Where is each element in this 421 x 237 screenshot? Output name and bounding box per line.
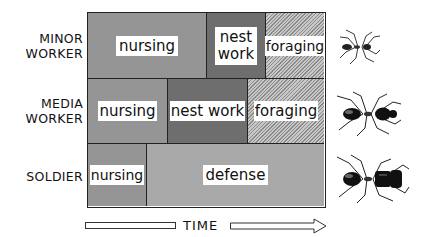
- cell-media-foraging: foraging: [248, 79, 324, 144]
- ant-medium-icon: [335, 90, 405, 138]
- row-label-media-worker: MEDIA WORKER: [26, 96, 83, 126]
- task-label-line: work: [218, 45, 254, 63]
- row-label-soldier: SOLDIER: [26, 169, 83, 184]
- row-label-minor-worker: MINOR WORKER: [26, 31, 83, 61]
- row-label-line: WORKER: [26, 46, 83, 61]
- task-label: nursing: [98, 101, 156, 121]
- row-label-line: MINOR: [26, 31, 83, 46]
- task-label: foraging: [254, 101, 319, 121]
- time-axis: TIME: [0, 218, 421, 234]
- cell-minor-nest-work: nest work: [207, 13, 266, 79]
- cell-minor-nursing: nursing: [88, 13, 207, 79]
- arrow-shaft-left: [85, 221, 177, 231]
- arrow-right-icon: [230, 218, 328, 234]
- row-label-line: MEDIA: [26, 96, 83, 111]
- cell-media-nest-work: nest work: [168, 79, 248, 144]
- cell-soldier-nursing: nursing: [88, 144, 147, 206]
- ant-small-icon: [336, 28, 386, 66]
- task-label: nursing: [90, 165, 144, 185]
- task-label: nest work: [215, 27, 257, 65]
- row-label-line: WORKER: [26, 111, 83, 126]
- ant-large-icon: [335, 153, 411, 205]
- task-label: defense: [203, 165, 269, 185]
- task-grid: nursing nest work foraging nursing nest …: [87, 12, 326, 208]
- cell-media-nursing: nursing: [88, 79, 168, 144]
- time-axis-label: TIME: [183, 218, 218, 233]
- task-label: nest work: [170, 101, 246, 121]
- row-label-line: SOLDIER: [26, 169, 83, 184]
- cell-minor-foraging: foraging: [266, 13, 324, 79]
- task-label: foraging: [265, 36, 325, 56]
- task-label-line: nest: [220, 28, 252, 46]
- cell-soldier-defense: defense: [147, 144, 324, 206]
- task-label: nursing: [116, 36, 178, 56]
